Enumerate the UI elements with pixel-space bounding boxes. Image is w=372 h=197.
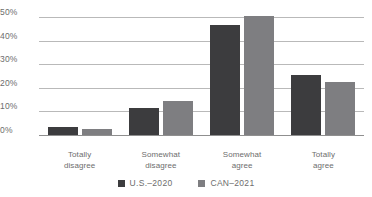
y-tick-label-20: 20% [0,78,34,88]
y-tick-label-40: 40% [0,31,34,41]
x-axis-line [39,135,364,136]
legend-label: CAN–2021 [210,178,254,188]
category-label-line: disagree [120,161,201,172]
y-tick-label-50: 50% [0,7,34,17]
category-label-line: agree [283,161,364,172]
category-label-line: Totally [39,150,120,161]
bar-chart: 0%10%20%30%40%50% TotallydisagreeSomewha… [0,0,372,197]
plot-area [39,18,364,136]
legend-item[interactable]: U.S.–2020 [118,178,173,188]
bar-group [129,18,193,136]
legend-label: U.S.–2020 [130,178,173,188]
category-label-line: Totally [283,150,364,161]
legend-item[interactable]: CAN–2021 [198,178,254,188]
chart-legend: U.S.–2020CAN–2021 [0,178,372,188]
category-label: Somewhatagree [202,150,283,171]
category-label: Totallyagree [283,150,364,171]
y-tick-label-10: 10% [0,101,34,111]
y-tick-label-0: 0% [0,125,34,135]
bar [325,82,355,136]
category-label-line: Somewhat [120,150,201,161]
y-tick-label-30: 30% [0,54,34,64]
legend-swatch-icon [198,180,205,187]
bar [129,108,159,136]
bar-group [291,18,355,136]
category-label: Somewhatdisagree [120,150,201,171]
bar [291,75,321,136]
bar-group [48,18,112,136]
bar [244,16,274,136]
bar [210,25,240,136]
bar-group [210,18,274,136]
category-label-line: disagree [39,161,120,172]
bar [163,101,193,136]
category-label-line: Somewhat [202,150,283,161]
category-label-line: agree [202,161,283,172]
legend-swatch-icon [118,180,125,187]
category-label: Totallydisagree [39,150,120,171]
